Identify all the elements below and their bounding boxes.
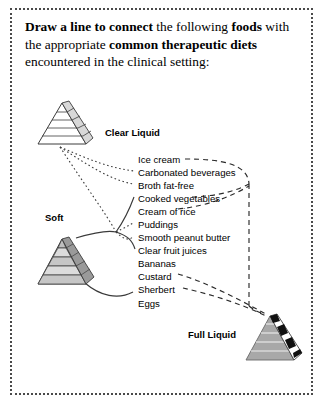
- pyramid-full-liquid: [243, 313, 307, 365]
- food-item[interactable]: Broth fat-free: [138, 179, 236, 192]
- food-item[interactable]: Cooked vegetables: [138, 192, 236, 205]
- prompt-text-1: the following: [153, 19, 231, 34]
- food-item[interactable]: Custard: [138, 270, 236, 283]
- food-item[interactable]: Carbonated beverages: [138, 166, 236, 179]
- diet-label-clear-liquid: Clear Liquid: [105, 127, 160, 138]
- food-item[interactable]: Bananas: [138, 257, 236, 270]
- food-items-list: Ice cream Carbonated beverages Broth fat…: [138, 153, 236, 310]
- food-item[interactable]: Puddings: [138, 218, 236, 231]
- pyramid-clear-liquid: [36, 100, 98, 150]
- prompt-bold-diets: common therapeutic diets: [109, 37, 257, 52]
- prompt-bold-draw-line: Draw a line to connect: [25, 19, 153, 34]
- pyramid-soft: [36, 236, 98, 290]
- food-item[interactable]: Smooth peanut butter: [138, 231, 236, 244]
- food-item[interactable]: Eggs: [138, 297, 236, 310]
- food-item[interactable]: Ice cream: [138, 153, 236, 166]
- food-item[interactable]: Cream of rice: [138, 205, 236, 218]
- instruction-prompt: Draw a line to connect the following foo…: [25, 18, 300, 71]
- diet-label-full-liquid: Full Liquid: [188, 329, 236, 340]
- diet-label-soft: Soft: [45, 212, 63, 223]
- food-item[interactable]: Clear fruit juices: [138, 244, 236, 257]
- prompt-bold-foods: foods: [231, 19, 262, 34]
- food-item[interactable]: Sherbert: [138, 283, 236, 296]
- worksheet-page: Draw a line to connect the following foo…: [0, 0, 327, 410]
- prompt-text-3: encountered in the clinical setting:: [25, 54, 209, 69]
